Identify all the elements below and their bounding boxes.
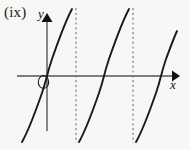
graph-canvas (0, 0, 190, 150)
figure-part-label: (ix) (4, 4, 26, 21)
figure-container: (ix) y x (0, 0, 190, 150)
y-axis-label: y (38, 6, 44, 22)
x-axis-label: x (170, 77, 176, 93)
y-axis (42, 13, 53, 131)
